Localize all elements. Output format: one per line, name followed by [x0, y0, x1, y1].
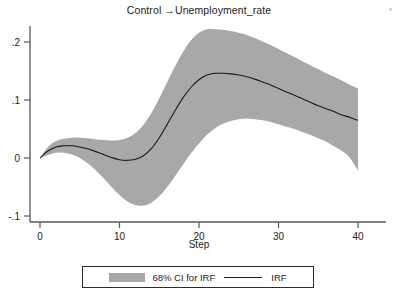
irf-legend-line — [224, 277, 262, 278]
plot-svg: .2.10-.1 010203040 — [0, 0, 398, 250]
y-tick-label: .2 — [12, 37, 21, 48]
ci-band-area — [40, 29, 358, 206]
irf-legend-label: IRF — [271, 272, 286, 283]
x-axis-title: Step — [0, 239, 398, 250]
ci-band-group — [40, 29, 358, 206]
ci-legend-swatch — [109, 273, 145, 282]
y-tick-label: .1 — [12, 95, 21, 106]
y-ticks-group: .2.10-.1 — [8, 37, 30, 222]
irf-chart-figure: Control →Unemployment_rate .2.10-.1 0102… — [0, 0, 398, 294]
y-tick-label: -.1 — [8, 211, 20, 222]
chart-legend: 68% CI for IRF IRF — [82, 266, 314, 288]
plot-area: .2.10-.1 010203040 — [0, 0, 398, 250]
ci-legend-label: 68% CI for IRF — [152, 272, 215, 283]
y-tick-label: 0 — [14, 153, 20, 164]
